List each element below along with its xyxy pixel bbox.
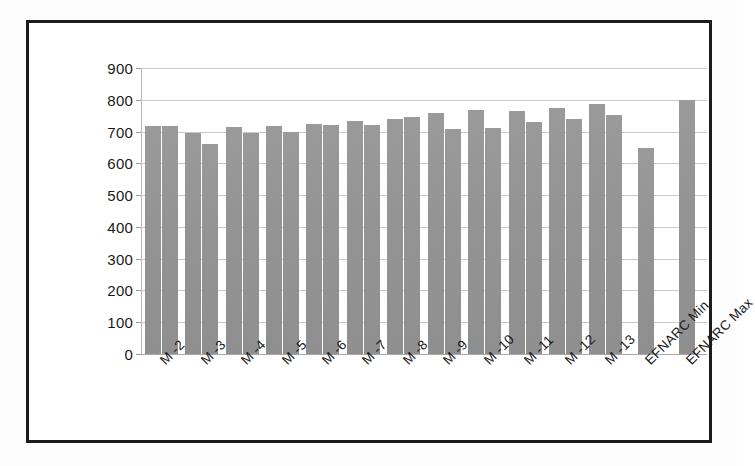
y-axis-tick-label: 200	[107, 282, 133, 299]
bar-group	[384, 68, 424, 354]
bar[interactable]	[364, 125, 380, 354]
y-axis-tick-label: 400	[107, 218, 133, 235]
chart-frame: 9008007006005004003002001000 M -2M -3M -…	[26, 20, 712, 443]
bar-group	[343, 68, 383, 354]
bar-series-container	[141, 68, 707, 354]
bar[interactable]	[266, 126, 282, 354]
bar[interactable]	[589, 104, 605, 354]
bar-group	[586, 68, 626, 354]
y-axis-tick-label: 300	[107, 250, 133, 267]
y-axis-tick	[136, 354, 141, 355]
bar-group	[222, 68, 262, 354]
bar[interactable]	[283, 132, 299, 354]
bar[interactable]	[404, 117, 420, 354]
bar[interactable]	[323, 125, 339, 354]
bar[interactable]	[162, 126, 178, 354]
bar[interactable]	[226, 127, 242, 354]
bar[interactable]	[445, 129, 461, 354]
bar-group	[181, 68, 221, 354]
bar[interactable]	[549, 108, 565, 354]
bar[interactable]	[387, 119, 403, 354]
bar[interactable]	[243, 133, 259, 354]
y-axis-tick-label: 900	[107, 60, 133, 77]
y-axis-tick-label: 700	[107, 123, 133, 140]
bar-group	[303, 68, 343, 354]
bar[interactable]	[185, 133, 201, 354]
x-axis-labels: M -2M -3M -4M -5M -6M -7M -8M -9M -10M -…	[141, 357, 707, 462]
bar[interactable]	[638, 148, 654, 354]
plot-area	[141, 68, 707, 354]
y-axis-tick-label: 600	[107, 155, 133, 172]
bar[interactable]	[509, 111, 525, 354]
bar[interactable]	[468, 110, 484, 354]
bar[interactable]	[306, 124, 322, 354]
y-axis-tick-label: 100	[107, 314, 133, 331]
bar[interactable]	[202, 144, 218, 354]
bar[interactable]	[566, 119, 582, 354]
bar[interactable]	[145, 126, 161, 354]
bar[interactable]	[485, 128, 501, 354]
bar[interactable]	[526, 122, 542, 354]
bar-group	[464, 68, 504, 354]
bar[interactable]	[606, 115, 622, 354]
bar-group	[545, 68, 585, 354]
y-axis-tick-label: 0	[124, 346, 133, 363]
bar[interactable]	[347, 121, 363, 354]
bar-group	[424, 68, 464, 354]
y-axis-tick-label: 800	[107, 91, 133, 108]
bar-group	[262, 68, 302, 354]
bar-group	[141, 68, 181, 354]
bar-group	[505, 68, 545, 354]
y-axis-labels: 9008007006005004003002001000	[67, 68, 133, 355]
bar[interactable]	[428, 113, 444, 354]
y-axis-tick-label: 500	[107, 187, 133, 204]
bar-group	[626, 68, 666, 354]
